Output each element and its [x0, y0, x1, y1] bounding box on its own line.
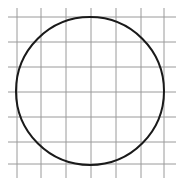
circle-grid-diagram	[0, 0, 180, 184]
circle-shape	[16, 17, 164, 165]
grid	[8, 8, 176, 178]
